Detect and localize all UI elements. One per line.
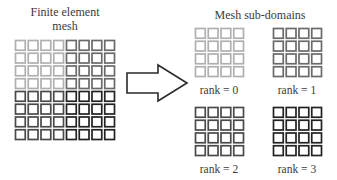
subdomain-rank-0	[196, 29, 244, 77]
rank-label-2: rank = 2	[189, 163, 249, 175]
rank-label-3: rank = 3	[267, 163, 327, 175]
subdomain-rank-1	[274, 29, 322, 77]
rank-label-1: rank = 1	[267, 84, 327, 96]
rank-label-0: rank = 0	[189, 84, 249, 96]
right-arrow-icon	[127, 65, 187, 101]
finite-element-mesh	[16, 41, 115, 140]
subdomain-rank-3	[274, 108, 322, 156]
subdomain-rank-2	[196, 108, 244, 156]
